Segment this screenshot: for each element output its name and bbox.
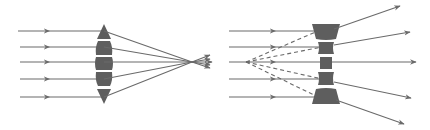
lens-segment xyxy=(318,42,334,54)
lens-segment-top xyxy=(312,24,340,40)
diverging-ray xyxy=(336,100,404,124)
virtual-ray xyxy=(246,62,322,79)
refracted-rays-convex xyxy=(104,31,212,97)
concave-lens xyxy=(312,24,340,104)
refracted-rays-concave xyxy=(332,6,416,124)
diverging-ray xyxy=(334,32,410,45)
lens-segment-bottom xyxy=(312,88,340,104)
virtual-ray xyxy=(246,47,322,62)
lens-segment-center xyxy=(95,57,113,70)
diverging-ray xyxy=(334,6,400,29)
lens-segment xyxy=(318,72,334,85)
diagram-canvas xyxy=(0,0,430,130)
virtual-rays-concave xyxy=(246,31,322,97)
convex-lens xyxy=(95,24,113,104)
diverging-ray xyxy=(334,82,411,98)
concave-lens-panel xyxy=(229,6,416,124)
lens-ray-diagram: Converging and diverging lenses with par… xyxy=(0,0,430,130)
incoming-rays-concave xyxy=(229,31,325,97)
lens-segment-center xyxy=(320,57,332,69)
convex-lens-panel xyxy=(18,24,212,104)
incoming-rays-convex xyxy=(18,31,104,97)
